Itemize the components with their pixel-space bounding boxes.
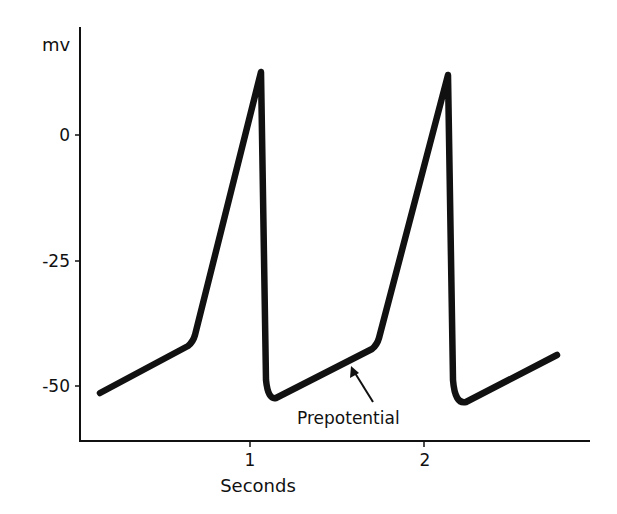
y-tick-label-minus50: -50	[42, 376, 70, 396]
y-axis-unit-label: mv	[42, 34, 71, 55]
prepotential-arrow-icon	[350, 366, 373, 402]
prepotential-label: Prepotential	[297, 408, 400, 428]
x-tick-label-2: 2	[420, 450, 431, 470]
action-potential-chart: mv 0 -25 -50 1 2 Seconds Prepotential	[0, 0, 617, 514]
y-tick-label-minus25: -25	[42, 251, 70, 271]
x-tick-label-1: 1	[245, 450, 256, 470]
y-tick-label-0: 0	[59, 125, 70, 145]
membrane-potential-trace	[100, 72, 557, 402]
x-axis-title: Seconds	[220, 475, 296, 496]
